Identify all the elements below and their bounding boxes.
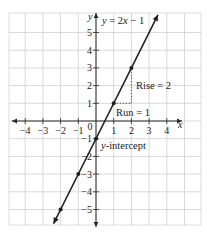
x-axis-label: x <box>177 119 183 130</box>
x-tick-label: −3 <box>38 125 49 136</box>
data-point <box>129 66 133 70</box>
data-point <box>94 137 98 141</box>
x-tick-label: 4 <box>164 125 169 136</box>
x-axis-arrow-left <box>12 119 17 124</box>
x-tick-label: 0 <box>88 121 93 132</box>
grid-lines <box>9 13 201 225</box>
y-tick-label: −4 <box>81 186 92 197</box>
run-label: Run = 1 <box>116 107 150 118</box>
equation-tail: − 1 <box>128 15 144 26</box>
y-tick-label: 4 <box>87 45 92 56</box>
y-tick-label: −1 <box>81 133 92 144</box>
x-tick-label: 3 <box>147 125 152 136</box>
y-axis-arrow-down <box>94 222 99 227</box>
equation-label: y = 2x − 1 <box>101 15 144 26</box>
line-y-equals-2x-minus-1 <box>54 15 158 224</box>
y-tick-label: 1 <box>87 98 92 109</box>
x-tick-label: 1 <box>111 125 116 136</box>
y-axis-arrow-up <box>94 13 99 18</box>
equation-mid: = 2 <box>107 15 123 26</box>
grid-frame <box>9 13 201 225</box>
axes <box>12 13 182 227</box>
y-tick-label: 5 <box>87 27 92 38</box>
data-point <box>59 208 63 212</box>
y-intercept-label: y-intercept <box>100 140 146 151</box>
x-tick-labels: −4−3−2−101234 <box>20 121 169 136</box>
x-tick-label: −4 <box>20 125 31 136</box>
x-tick-label: 2 <box>129 125 134 136</box>
y-intercept-rest: -intercept <box>106 140 146 151</box>
rise-label: Rise = 2 <box>136 80 171 91</box>
y-axis-label: y <box>87 11 93 22</box>
line-series <box>54 15 158 224</box>
data-point <box>76 172 80 176</box>
y-tick-label: 3 <box>87 62 92 73</box>
data-point <box>112 101 116 105</box>
y-tick-label: −3 <box>81 169 92 180</box>
y-tick-label: 2 <box>87 80 92 91</box>
line-graph: −4−3−2−101234 −5−4−3−2−112345 x y y = 2x… <box>0 0 207 233</box>
y-tick-label: −5 <box>81 204 92 215</box>
x-tick-label: −2 <box>55 125 66 136</box>
